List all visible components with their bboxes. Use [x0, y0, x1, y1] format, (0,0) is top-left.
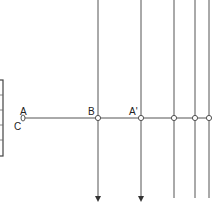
- label-b: B: [88, 106, 95, 117]
- left-segmented-bar: [0, 80, 3, 156]
- node-b: [95, 115, 100, 120]
- arrow-down-icon: [138, 196, 144, 202]
- label-a-prime: A': [129, 106, 138, 117]
- node-5: [192, 115, 197, 120]
- label-a: A: [20, 106, 27, 117]
- node-4: [171, 115, 176, 120]
- label-c: C: [14, 121, 21, 132]
- diagram-canvas: A C B A': [0, 0, 223, 205]
- vertical-line-a-prime: [138, 0, 144, 202]
- arrow-down-icon: [95, 196, 101, 202]
- node-a-prime: [138, 115, 143, 120]
- node-6: [206, 115, 211, 120]
- vertical-line-b: [95, 0, 101, 202]
